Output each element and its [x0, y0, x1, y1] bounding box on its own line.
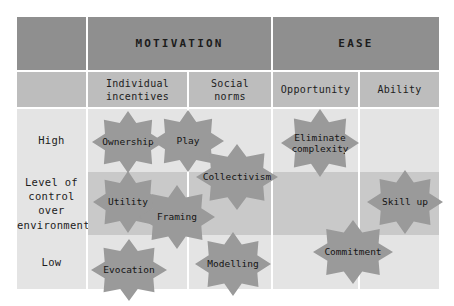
column-header-ability-label: Ability [360, 83, 439, 97]
row-header-low: Low [17, 235, 86, 289]
star-utility-label: Utility [108, 196, 148, 207]
column-header-opportunity: Opportunity [273, 72, 358, 107]
star-framing-label: Framing [157, 211, 197, 222]
star-collectivism-label: Collectivism [203, 171, 272, 182]
star-evocation-label: Evocation [103, 264, 154, 275]
column-header-individual-incentives: Individual incentives [88, 72, 187, 107]
star-ownership-label: Ownership [102, 136, 153, 147]
star-modelling-label: Modelling [207, 258, 258, 269]
star-commitment-label: Commitment [324, 246, 381, 257]
column-header-individual-incentives-label: Individual incentives [88, 76, 187, 103]
row-header-level-of-control: Level of control over environment [17, 171, 86, 235]
star-play-label: Play [177, 135, 200, 146]
top-header-ease: EASE [273, 17, 439, 70]
top-header-motivation: MOTIVATION [88, 17, 271, 70]
framework-matrix: MOTIVATION EASE Individual incentives So… [17, 17, 439, 289]
row-header-level-of-control-label: Level of control over environment [17, 175, 86, 232]
column-header-opportunity-label: Opportunity [273, 83, 358, 97]
top-header-ease-label: EASE [273, 36, 439, 51]
star-skill-up-label: Skill up [382, 196, 428, 207]
row-header-high: High [17, 109, 86, 171]
row-header-high-label: High [17, 133, 86, 147]
star-eliminate-complexity-label: Eliminate complexity [291, 132, 348, 155]
row-header-low-label: Low [17, 255, 86, 269]
top-header-motivation-label: MOTIVATION [88, 36, 271, 51]
subheader-corner-cell [17, 72, 86, 107]
mid-band-opportunity [273, 172, 358, 235]
matrix-corner-cell [17, 17, 86, 70]
column-header-social-norms: Social norms [189, 72, 271, 107]
column-header-ability: Ability [360, 72, 439, 107]
column-header-social-norms-label: Social norms [189, 76, 271, 103]
